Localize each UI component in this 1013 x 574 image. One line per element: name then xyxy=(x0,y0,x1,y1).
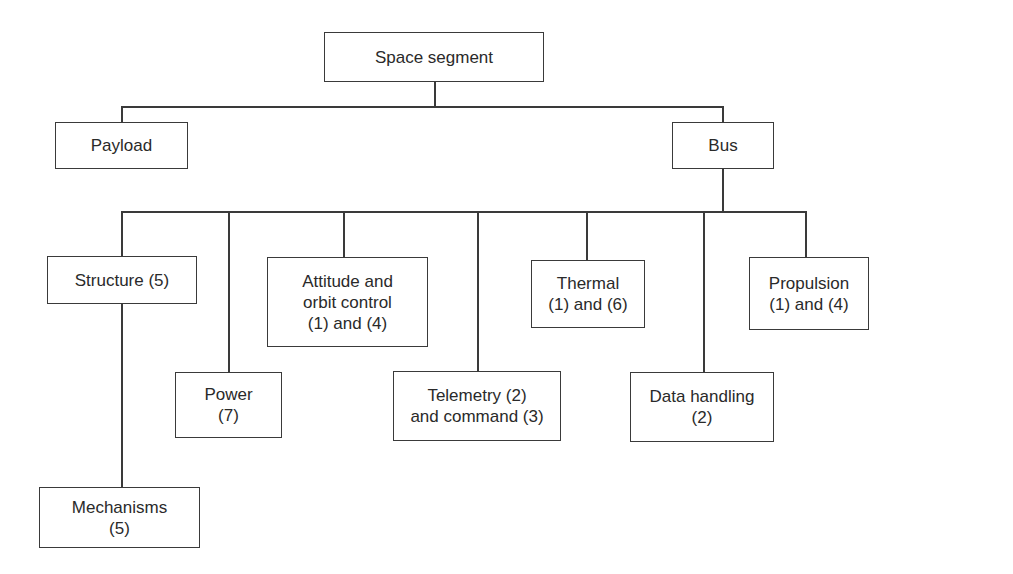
connector-thermal xyxy=(586,211,588,260)
node-label: Telemetry (2) and command (3) xyxy=(410,385,543,427)
node-label: Power (7) xyxy=(204,384,252,426)
node-label: Data handling (2) xyxy=(650,386,755,428)
node-data-handling: Data handling (2) xyxy=(630,372,774,442)
connector-structure xyxy=(121,211,123,256)
node-payload: Payload xyxy=(55,122,188,169)
node-propulsion: Propulsion (1) and (4) xyxy=(749,257,869,330)
connector-payload xyxy=(121,106,123,122)
node-attitude-orbit-control: Attitude and orbit control (1) and (4) xyxy=(267,257,428,347)
node-label: Attitude and orbit control (1) and (4) xyxy=(302,271,393,334)
node-label: Structure (5) xyxy=(75,270,169,291)
node-space-segment: Space segment xyxy=(324,32,544,82)
node-label: Space segment xyxy=(375,47,493,68)
connector-power xyxy=(228,211,230,372)
connector-bus-down xyxy=(722,168,724,212)
node-mechanisms: Mechanisms (5) xyxy=(39,487,200,548)
connector-data-handling xyxy=(703,211,705,372)
node-telemetry-command: Telemetry (2) and command (3) xyxy=(393,371,561,441)
connector-bus xyxy=(722,106,724,122)
node-structure: Structure (5) xyxy=(47,256,197,304)
node-label: Propulsion (1) and (4) xyxy=(769,273,849,315)
node-label: Bus xyxy=(708,135,737,156)
node-power: Power (7) xyxy=(175,372,282,438)
node-label: Payload xyxy=(91,135,152,156)
connector-mechanisms xyxy=(121,303,123,487)
node-label: Thermal (1) and (6) xyxy=(548,273,627,315)
connector-attitude xyxy=(343,211,345,257)
node-thermal: Thermal (1) and (6) xyxy=(531,260,645,328)
connector-root-down xyxy=(434,81,436,108)
node-label: Mechanisms (5) xyxy=(72,497,167,539)
node-bus: Bus xyxy=(672,122,774,169)
connector-telemetry xyxy=(477,211,479,371)
connector-propulsion xyxy=(805,211,807,257)
connector-level1-bar xyxy=(121,106,723,108)
